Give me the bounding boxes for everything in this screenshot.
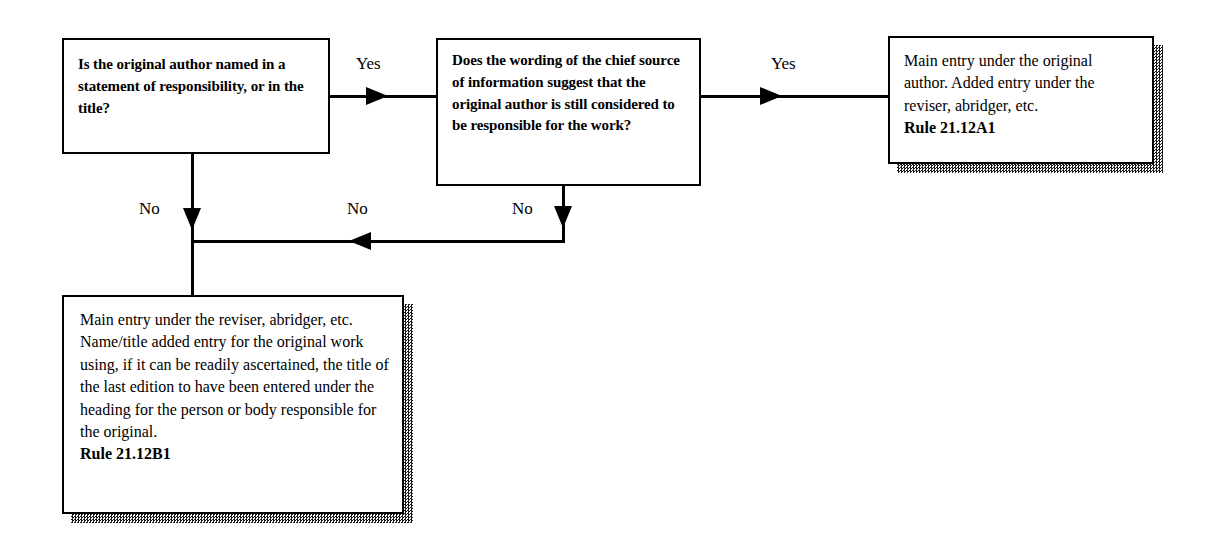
connector-q2-to-outcome-a — [700, 95, 890, 98]
node-outcome-original-author[interactable]: Main entry under the original author. Ad… — [888, 36, 1154, 164]
connector-merge-horizontal — [191, 240, 565, 243]
node-outcome-original-author-rule: Rule 21.12A1 — [904, 117, 1138, 139]
node-question-author-named-text: Is the original author named in a statem… — [64, 40, 328, 127]
arrowhead-q1-to-q2 — [366, 87, 388, 105]
node-outcome-reviser-rule: Rule 21.12B1 — [80, 443, 390, 465]
edge-label-no-q1: No — [139, 199, 160, 219]
node-question-author-named[interactable]: Is the original author named in a statem… — [62, 38, 330, 154]
node-outcome-reviser-text: Main entry under the reviser, abridger, … — [80, 311, 389, 440]
node-outcome-reviser[interactable]: Main entry under the reviser, abridger, … — [62, 295, 404, 514]
edge-label-yes-q2-outcome-a: Yes — [771, 54, 796, 74]
arrowhead-q2-no — [554, 206, 572, 228]
arrowhead-q2-to-outcome-a — [760, 87, 782, 105]
node-question-wording-suggests-text: Does the wording of the chief source of … — [438, 40, 699, 145]
arrowhead-merge — [349, 232, 371, 250]
node-outcome-original-author-text: Main entry under the original author. Ad… — [904, 52, 1095, 114]
flowchart-canvas: Yes Yes No No No Is the original author … — [0, 0, 1221, 557]
edge-label-no-q2: No — [512, 199, 533, 219]
edge-label-no-merge: No — [347, 199, 368, 219]
edge-label-yes-q1-q2: Yes — [356, 54, 381, 74]
connector-merge-to-outcome-b — [191, 241, 194, 297]
connector-q1-no-down — [191, 153, 194, 245]
node-question-wording-suggests[interactable]: Does the wording of the chief source of … — [436, 38, 701, 186]
arrowhead-q1-no — [183, 208, 201, 230]
